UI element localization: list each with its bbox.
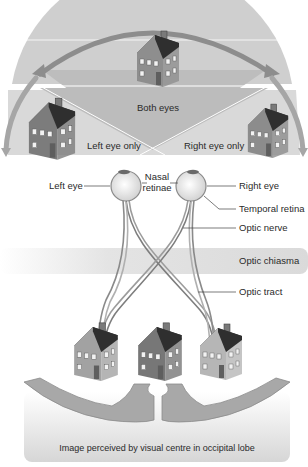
house-perceived-center-icon xyxy=(138,323,182,381)
label-left-eye-only: Left eye only xyxy=(87,140,141,151)
label-right-eye: Right eye xyxy=(239,180,279,191)
label-optic-nerve: Optic nerve xyxy=(239,222,288,233)
label-optic-chiasma: Optic chiasma xyxy=(239,255,299,266)
label-nasal-retinae-2: retinae xyxy=(142,182,172,193)
label-optic-tract: Optic tract xyxy=(239,286,282,297)
label-both-eyes: Both eyes xyxy=(128,102,188,113)
label-left-eye: Left eye xyxy=(49,180,83,191)
label-temporal-retina: Temporal retina xyxy=(239,203,304,214)
house-perceived-left-icon xyxy=(74,323,118,381)
left-eye-icon xyxy=(111,170,141,201)
label-occipital-lobe: Image perceived by visual centre in occi… xyxy=(24,443,290,454)
label-leader-lines xyxy=(84,183,236,292)
house-perceived-right-icon xyxy=(200,324,242,380)
visual-pathway-diagram xyxy=(0,0,308,467)
right-eye-icon xyxy=(176,170,206,201)
label-nasal-retinae-1: Nasal xyxy=(142,171,172,182)
label-right-eye-only: Right eye only xyxy=(184,140,244,151)
